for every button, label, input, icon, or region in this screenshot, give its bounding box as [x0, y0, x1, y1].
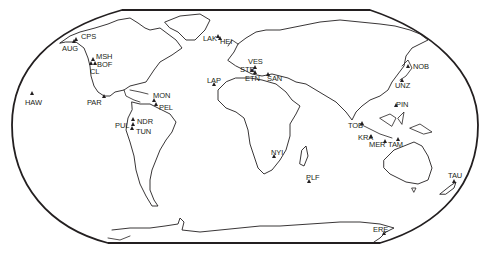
- site-label-ere: ERE: [373, 226, 388, 234]
- site-label-tob: TOB: [348, 122, 363, 130]
- coast-africa: [218, 78, 300, 174]
- site-label-unz: UNZ: [395, 82, 410, 90]
- site-marker-pel: [154, 102, 158, 106]
- site-marker-haw: [30, 91, 34, 95]
- site-marker-ndr: [131, 117, 135, 121]
- site-label-cl: CL: [90, 68, 99, 76]
- site-marker-aug: [72, 39, 76, 43]
- site-label-etn: ETN: [245, 75, 260, 83]
- site-marker-par: [102, 94, 106, 98]
- site-label-haw: HAW: [25, 99, 42, 107]
- map-frame: [12, 10, 478, 243]
- site-label-pel: PEL: [159, 104, 173, 112]
- site-label-tau: TAU: [448, 172, 462, 180]
- site-label-nob: NOB: [413, 63, 429, 71]
- site-label-cps: CPS: [81, 33, 96, 41]
- site-label-lap: LAP: [207, 77, 221, 85]
- world-map: CPSAUGMSHBOFCLHAWPARMONPELNDRPULTUNLAKHE…: [0, 0, 493, 255]
- site-label-mon: MON: [153, 92, 170, 100]
- site-label-hei: HEI: [220, 38, 232, 46]
- site-label-san: SAN: [267, 75, 282, 83]
- coast-new-zealand: [440, 182, 456, 194]
- site-label-tam: TAM: [388, 141, 403, 149]
- site-label-par: PAR: [87, 99, 102, 107]
- site-marker-tun: [130, 126, 134, 130]
- site-label-pin: PIN: [396, 101, 408, 109]
- site-label-mer: MER: [369, 141, 385, 149]
- site-label-aug: AUG: [62, 45, 78, 53]
- site-label-tun: TUN: [136, 128, 151, 136]
- site-marker-nob: [406, 64, 410, 68]
- coast-north-america: [60, 18, 182, 96]
- coast-antarctica: [112, 218, 394, 242]
- site-label-pul: PUL: [115, 122, 129, 130]
- site-marker-cl: [89, 61, 93, 65]
- site-label-nyi: NYI: [271, 149, 283, 157]
- site-label-lak: LAK: [203, 35, 217, 43]
- site-label-plf: PLF: [306, 174, 319, 182]
- site-label-ndr: NDR: [137, 118, 153, 126]
- coast-madagascar: [300, 146, 308, 166]
